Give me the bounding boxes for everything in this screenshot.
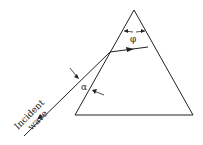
prism-triangle [75,10,193,115]
alpha-label: α [81,82,87,92]
prism-diagram: φ α Incident wave [0,0,203,145]
alpha-arrowhead-upper-icon [74,74,79,79]
phi-label: φ [130,34,136,44]
refracted-arrow-icon [126,47,134,52]
phi-arrowhead-right-icon [141,29,145,33]
phi-arrowhead-left-icon [124,29,128,33]
